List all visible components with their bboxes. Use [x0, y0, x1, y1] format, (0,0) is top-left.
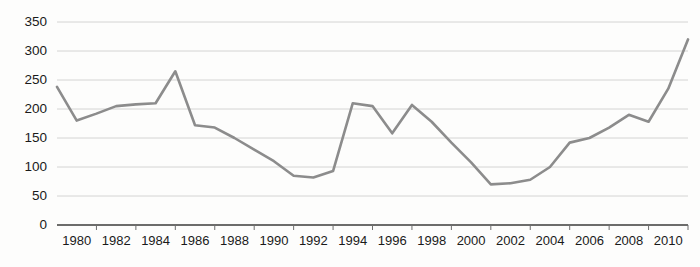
y-tick-label-350: 350: [24, 14, 47, 29]
x-tick-label-1990: 1990: [259, 233, 288, 248]
y-axis-tick-labels: 050100150200250300350: [24, 14, 47, 232]
x-tick-label-2002: 2002: [496, 233, 525, 248]
x-tick-label-1992: 1992: [299, 233, 328, 248]
x-tick-label-2006: 2006: [575, 233, 604, 248]
x-tick-label-1994: 1994: [338, 233, 367, 248]
x-axis-tick-labels: 1980198219841986198819901992199419961998…: [62, 233, 682, 248]
x-tick-label-2010: 2010: [654, 233, 683, 248]
y-tick-label-150: 150: [24, 130, 47, 145]
x-tick-label-1996: 1996: [378, 233, 407, 248]
x-tick-label-1984: 1984: [141, 233, 170, 248]
y-tick-label-0: 0: [39, 217, 47, 232]
x-tick-label-1998: 1998: [417, 233, 446, 248]
x-tick-label-1980: 1980: [62, 233, 91, 248]
x-tick-label-1982: 1982: [102, 233, 131, 248]
line-chart: 050100150200250300350 198019821984198619…: [0, 0, 700, 267]
y-tick-label-200: 200: [24, 101, 47, 116]
series-line-series-1: [57, 39, 688, 184]
y-tick-label-100: 100: [24, 159, 47, 174]
y-tick-label-250: 250: [24, 72, 47, 87]
x-tick-label-2004: 2004: [536, 233, 565, 248]
x-axis: [57, 225, 688, 230]
y-tick-label-300: 300: [24, 43, 47, 58]
x-tick-label-2000: 2000: [457, 233, 486, 248]
gridlines: [57, 22, 688, 196]
chart-canvas: 050100150200250300350 198019821984198619…: [0, 0, 700, 267]
x-tick-label-2008: 2008: [614, 233, 643, 248]
x-tick-label-1986: 1986: [181, 233, 210, 248]
x-tick-label-1988: 1988: [220, 233, 249, 248]
y-tick-label-50: 50: [32, 188, 47, 203]
data-series: [57, 39, 688, 184]
